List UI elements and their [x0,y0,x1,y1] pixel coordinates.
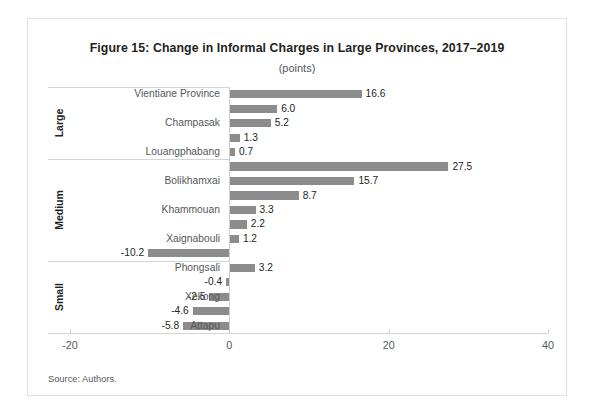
bar-value-label: 2.2 [251,219,265,229]
category-label: Attapu [70,321,220,331]
page-title: Figure 15: Change in Informal Charges in… [28,41,566,55]
bar [229,264,254,272]
bar-value-label: 3.3 [260,205,274,215]
bar-value-label: 1.3 [244,133,258,143]
bar-value-label: 15.7 [358,176,378,186]
bar [148,249,229,257]
bar [229,206,255,214]
group-label-small: Small [48,261,70,333]
bar-value-label: 3.2 [259,263,273,273]
group-label-text: Small [53,283,65,311]
x-tick-label: 0 [226,339,232,351]
category-label: Bolikhamxai [70,176,220,186]
bar-value-label: 0.7 [239,147,253,157]
bar [229,191,298,199]
bar [229,220,247,228]
bar [193,307,230,315]
group-divider [48,333,230,334]
bar-value-label: 27.5 [452,162,472,172]
zero-axis-line [229,87,230,333]
bar-value-label: 5.2 [275,118,289,128]
group-divider [48,159,230,160]
x-tick-label: 20 [383,339,395,351]
bar [229,90,361,98]
source-note: Source: Authors. [48,374,117,384]
category-label: Champasak [70,118,220,128]
x-tick-label: 40 [542,339,554,351]
x-tick-mark [389,329,390,333]
group-label-text: Large [53,109,65,138]
category-label: Khammouan [70,205,220,215]
category-label: Vientiane Province [70,89,220,99]
title-block: Figure 15: Change in Informal Charges in… [28,41,566,74]
bars-area: 16.6Vientiane Province6.05.2Champasak1.3… [70,87,548,333]
bar [229,119,270,127]
chart-subtitle: (points) [28,62,566,74]
x-tick-mark [548,329,549,333]
group-divider [48,261,230,262]
group-label-gutter: LargeMediumSmall [48,87,70,355]
group-label-large: Large [48,87,70,159]
bar [229,134,239,142]
bar-value-label: -0.4 [70,277,222,287]
bar [229,105,277,113]
bar [229,162,448,170]
category-label: Xaignabouli [70,234,220,244]
category-label: Phongsali [70,263,220,273]
bar-value-label: 6.0 [281,104,295,114]
bar-value-label: 1.2 [243,234,257,244]
category-label: Louangphabang [70,147,220,157]
group-label-text: Medium [53,190,65,230]
bar-value-label: 16.6 [366,89,386,99]
bar-value-label: -4.6 [70,306,189,316]
figure-frame: Figure 15: Change in Informal Charges in… [27,18,567,396]
category-label: Xekong [70,292,220,302]
bar [229,177,354,185]
x-tick-label: -20 [62,339,78,351]
bar-value-label: -10.2 [70,248,144,258]
bar-value-label: 8.7 [303,191,317,201]
group-divider [48,87,230,88]
bar [229,235,239,243]
chart-plot-area: LargeMediumSmall 16.6Vientiane Province6… [48,87,548,355]
group-label-medium: Medium [48,159,70,260]
